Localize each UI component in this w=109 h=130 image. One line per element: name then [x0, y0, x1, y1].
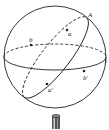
label-a: a: [68, 30, 72, 38]
point-b: [30, 44, 33, 47]
point-a-prime: [46, 83, 49, 86]
label-A: A: [87, 11, 93, 19]
point-b-prime: [83, 70, 86, 73]
label-t: t: [105, 57, 108, 65]
label-b-prime: b': [83, 74, 89, 82]
sphere-diagram: A a b t b' a': [0, 0, 109, 130]
equator-back-arc: [4, 44, 106, 57]
sphere-outline: [4, 6, 106, 108]
label-b: b: [29, 36, 33, 44]
label-a-prime: a': [48, 86, 54, 94]
cylinder-stand: [52, 114, 60, 129]
tilted-circle-front-arc: [24, 18, 97, 106]
equator-front-arc: [4, 57, 106, 70]
